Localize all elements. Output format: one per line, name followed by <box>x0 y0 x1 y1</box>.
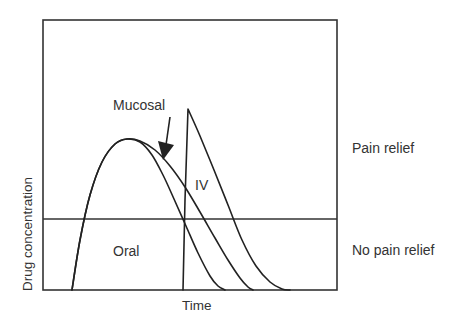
mucosal-arrow <box>158 117 174 160</box>
plot-frame <box>43 20 337 290</box>
arrow-shaft <box>166 117 170 145</box>
y-axis-label: Drug concentration <box>20 177 35 291</box>
pain-relief-label: Pain relief <box>352 140 414 156</box>
drug-concentration-chart: Mucosal IV Oral Pain relief No pain reli… <box>0 0 456 323</box>
mucosal-curve <box>72 139 253 290</box>
iv-label: IV <box>195 177 209 193</box>
no-pain-relief-label: No pain relief <box>352 242 435 258</box>
iv-curve <box>183 109 290 290</box>
x-axis-label: Time <box>182 298 212 313</box>
mucosal-label: Mucosal <box>113 97 165 113</box>
arrow-head-icon <box>158 141 174 160</box>
oral-label: Oral <box>113 243 139 259</box>
